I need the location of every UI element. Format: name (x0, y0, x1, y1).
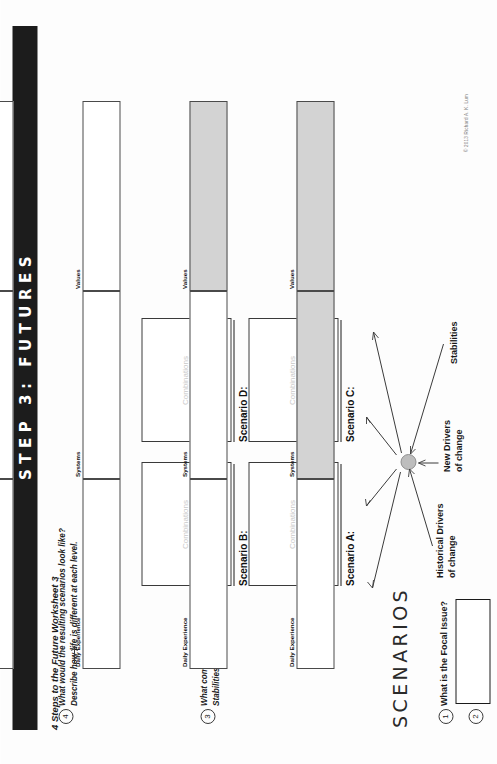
scenario-a-cell-daily-experience[interactable] (296, 479, 334, 669)
scenario-b-label-values: Values (180, 269, 187, 289)
scenario-d-rule (233, 320, 234, 442)
scenario-c-cell-daily-experience[interactable] (82, 479, 120, 669)
scenario-c-combinations-placeholder: Combinations (287, 356, 296, 405)
scenario-b-cell-daily-experience[interactable] (189, 479, 227, 669)
scenario-c-cell-values[interactable] (82, 101, 120, 291)
scenario-c-label-daily-experience: Daily Experience (73, 617, 80, 667)
scenario-d-cell-values[interactable] (0, 101, 13, 291)
scenario-a-cell-systems[interactable] (296, 291, 334, 479)
scenario-a-label: Scenario A: (344, 531, 355, 586)
scenario-c-rule (340, 320, 341, 442)
scenario-d-combinations-placeholder: Combinations (180, 356, 189, 405)
scenario-a-label-values: Values (287, 269, 294, 289)
scenario-c-cell-systems[interactable] (82, 291, 120, 479)
scenario-a-label-daily-experience: Daily Experience (287, 617, 294, 667)
scenario-d-cell-systems[interactable] (0, 291, 13, 479)
scenario-a-cell-values[interactable] (296, 101, 334, 291)
worksheet-page: STEP 3: FUTURES 4 Steps to the Future Wo… (0, 0, 497, 764)
scenario-a-label-systems: Systems (287, 452, 294, 477)
scenario-b-rule (233, 464, 234, 586)
scenario-a-combinations-placeholder: Combinations (287, 500, 296, 549)
scenario-b-label: Scenario B: (237, 530, 248, 586)
scenario-d-cell-daily-experience[interactable] (0, 479, 13, 669)
scenario-d-label: Scenario D: (237, 386, 248, 442)
scenario-b-label-systems: Systems (180, 452, 187, 477)
scenario-b-combinations-placeholder: Combinations (180, 500, 189, 549)
scenario-c-label-values: Values (73, 269, 80, 289)
scenario-c-label: Scenario C: (344, 386, 355, 442)
scenario-c-label-systems: Systems (73, 452, 80, 477)
scenario-b-cell-values[interactable] (189, 101, 227, 291)
scenario-b-cell-systems[interactable] (189, 291, 227, 479)
worksheet-canvas: STEP 3: FUTURES 4 Steps to the Future Wo… (0, 0, 497, 764)
scenario-a-rule (340, 464, 341, 586)
scenario-b-label-daily-experience: Daily Experience (180, 617, 187, 667)
